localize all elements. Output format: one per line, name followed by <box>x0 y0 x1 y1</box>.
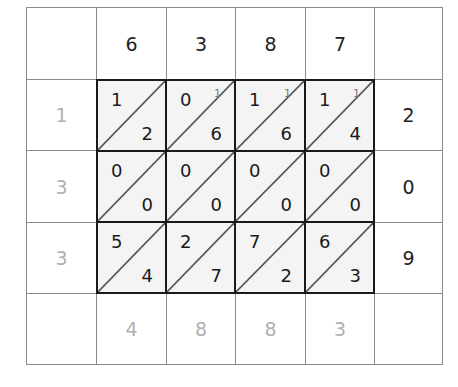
lattice-cell: 6 3 <box>304 221 375 294</box>
ones-digit: 2 <box>281 265 292 286</box>
corner-cell-top-left <box>26 7 97 80</box>
carry-digit: 1 <box>214 87 221 100</box>
diagonal-line <box>236 223 304 292</box>
ones-digit: 3 <box>350 265 361 286</box>
diagonal-line <box>236 81 304 150</box>
bottom-sum-digit: 8 <box>235 293 306 365</box>
top-digit: 7 <box>305 7 375 80</box>
right-digit: 9 <box>374 222 443 294</box>
corner-cell-top-right <box>374 7 443 80</box>
right-digit: 0 <box>374 150 443 223</box>
diagonal-line <box>98 81 165 150</box>
tens-digit: 0 <box>249 160 260 181</box>
diagonal-line <box>306 223 373 292</box>
ones-digit: 6 <box>281 123 292 144</box>
lattice-cell: 1 2 <box>96 79 167 152</box>
ones-digit: 0 <box>142 194 153 215</box>
diagonal-line <box>98 152 165 221</box>
tens-digit: 7 <box>249 231 260 252</box>
top-digit: 3 <box>166 7 236 80</box>
lattice-cell: 1 1 4 <box>304 79 375 152</box>
right-digit: 2 <box>374 79 443 151</box>
diagonal-line <box>236 152 304 221</box>
tens-digit: 0 <box>111 160 122 181</box>
carry-digit: 1 <box>284 87 291 100</box>
diagonal-line <box>306 81 373 150</box>
tens-digit: 0 <box>180 160 191 181</box>
diagonal-line <box>167 81 234 150</box>
top-digit: 6 <box>96 7 167 80</box>
tens-digit: 1 <box>319 89 330 110</box>
left-sum-digit: 3 <box>26 222 97 294</box>
tens-digit: 1 <box>249 89 260 110</box>
lattice-cell: 7 2 <box>234 221 306 294</box>
ones-digit: 7 <box>211 265 222 286</box>
tens-digit: 1 <box>111 89 122 110</box>
lattice-cell: 0 0 <box>96 150 167 223</box>
diagonal-line <box>98 223 165 292</box>
lattice-cell: 0 0 <box>234 150 306 223</box>
lattice-cell: 5 4 <box>96 221 167 294</box>
left-sum-digit: 3 <box>26 150 97 223</box>
bottom-sum-digit: 3 <box>305 293 375 365</box>
lattice-cell: 2 7 <box>165 221 236 294</box>
lattice-cell: 0 1 6 <box>165 79 236 152</box>
ones-digit: 4 <box>350 123 361 144</box>
left-sum-digit: 1 <box>26 79 97 151</box>
diagonal-line <box>167 152 234 221</box>
lattice-multiplication-grid: 6 3 8 7 1 3 3 2 0 9 4 8 8 3 1 2 0 1 6 1 … <box>26 7 443 365</box>
bottom-sum-digit: 4 <box>96 293 167 365</box>
ones-digit: 0 <box>281 194 292 215</box>
lattice-cell: 0 0 <box>304 150 375 223</box>
tens-digit: 0 <box>180 89 191 110</box>
diagonal-line <box>306 152 373 221</box>
bottom-sum-digit: 8 <box>166 293 236 365</box>
diagonal-line <box>167 223 234 292</box>
ones-digit: 2 <box>142 123 153 144</box>
ones-digit: 0 <box>350 194 361 215</box>
carry-digit: 1 <box>353 87 360 100</box>
ones-digit: 4 <box>142 265 153 286</box>
corner-cell-bottom-left <box>26 293 97 365</box>
tens-digit: 2 <box>180 231 191 252</box>
tens-digit: 5 <box>111 231 122 252</box>
top-digit: 8 <box>235 7 306 80</box>
lattice-cell: 0 0 <box>165 150 236 223</box>
ones-digit: 6 <box>211 123 222 144</box>
tens-digit: 6 <box>319 231 330 252</box>
ones-digit: 0 <box>211 194 222 215</box>
tens-digit: 0 <box>319 160 330 181</box>
lattice-cell: 1 1 6 <box>234 79 306 152</box>
corner-cell-bottom-right <box>374 293 443 365</box>
